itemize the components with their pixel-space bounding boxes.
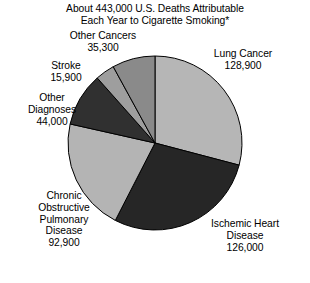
slice-label-lung-cancer: Lung Cancer 128,900 bbox=[188, 48, 298, 72]
slice-label-other-cancers: Other Cancers 35,300 bbox=[48, 30, 158, 54]
pie-chart-figure: About 443,000 U.S. Deaths Attributable E… bbox=[0, 0, 310, 283]
slice-label-stroke: Stroke 15,900 bbox=[18, 60, 114, 84]
slice-label-other-diagnoses: Other Diagnoses 44,000 bbox=[4, 92, 100, 127]
slice-label-ischemic-heart-disease: Ischemic Heart Disease 126,000 bbox=[186, 218, 304, 253]
slice-label-chronic-obstructive-pulmonary-disease: Chronic Obstructive Pulmonary Disease 92… bbox=[12, 190, 116, 249]
